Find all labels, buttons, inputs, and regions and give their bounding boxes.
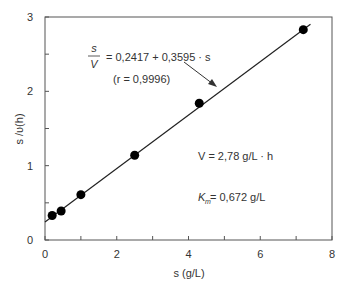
x-tick-label: 6 [257, 248, 263, 260]
arrow-head-icon [208, 79, 217, 87]
equation-annotation: s V = 0,2417 + 0,3595 · s (r = 0,9996) [88, 42, 217, 87]
x-tick-label: 8 [329, 248, 335, 260]
data-point [195, 99, 204, 108]
equation-denominator: V [90, 58, 99, 70]
x-tick-label: 0 [42, 248, 48, 260]
axis-ticks: 024680123 [27, 11, 335, 260]
data-point [76, 190, 85, 199]
data-point [299, 25, 308, 34]
y-axis-label: s /υ(h) [13, 113, 25, 144]
x-tick-label: 4 [185, 248, 191, 260]
y-tick-label: 0 [27, 234, 33, 246]
correlation-text: (r = 0,9996) [113, 73, 170, 85]
lineweaver-burk-chart: 024680123 s V = 0,2417 + 0,3595 · s (r =… [0, 0, 347, 287]
x-tick-label: 2 [114, 248, 120, 260]
equation-numerator: s [91, 42, 97, 54]
data-point [57, 207, 66, 216]
svg-text:= 0,672 g/L: = 0,672 g/L [210, 191, 265, 203]
km-text: K m = 0,672 g/L [198, 191, 265, 205]
x-axis-label: s (g/L) [173, 267, 204, 279]
vmax-text: V = 2,78 g/L · h [198, 150, 273, 162]
data-point [48, 211, 57, 220]
annotation-arrow [184, 62, 213, 84]
y-tick-label: 1 [27, 160, 33, 172]
equation-rhs: = 0,2417 + 0,3595 · s [106, 51, 211, 63]
data-point [130, 151, 139, 160]
y-tick-label: 2 [27, 85, 33, 97]
y-tick-label: 3 [27, 11, 33, 23]
